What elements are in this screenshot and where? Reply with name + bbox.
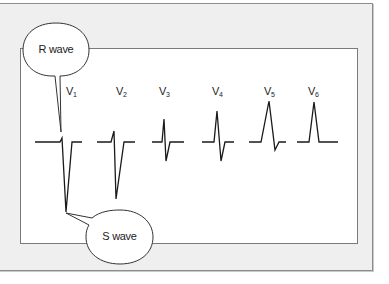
lead-label-v2: V2 [116,85,127,98]
r-wave-label: R wave [23,43,89,55]
waveform-v3 [152,119,184,161]
s-wave-label: S wave [86,230,153,242]
waveform-v2 [97,131,135,199]
lead-label-v1: V1 [66,85,77,98]
waveform-v1 [35,138,82,212]
r-wave-callout [23,23,89,132]
waveform-v5 [249,101,286,150]
lead-label-v5: V5 [264,85,275,98]
lead-label-v6: V6 [308,85,319,98]
waveform-v6 [297,102,338,142]
waveform-v4 [202,111,234,161]
ecg-figure: V1 V2 V3 V4 V5 V6 R wave S wave [0,0,389,284]
lead-label-v4: V4 [212,85,223,98]
lead-label-v3: V3 [159,85,170,98]
